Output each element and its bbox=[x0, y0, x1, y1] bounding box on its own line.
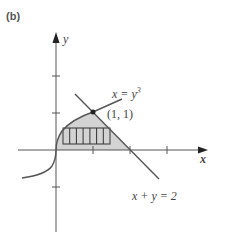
panel-label: (b) bbox=[6, 10, 20, 22]
x-axis-label: x bbox=[199, 152, 206, 166]
y-axis-arrow-icon bbox=[53, 32, 60, 43]
line-label: x + y = 2 bbox=[131, 189, 177, 203]
diagram-figure: (b) x y x = y3 (1, 1) x + y = 2 bbox=[0, 0, 225, 240]
intersection-point bbox=[91, 110, 96, 115]
point-label: (1, 1) bbox=[107, 107, 133, 121]
y-axis-label: y bbox=[62, 32, 69, 46]
cubic-curve-label: x = y3 bbox=[111, 86, 141, 101]
